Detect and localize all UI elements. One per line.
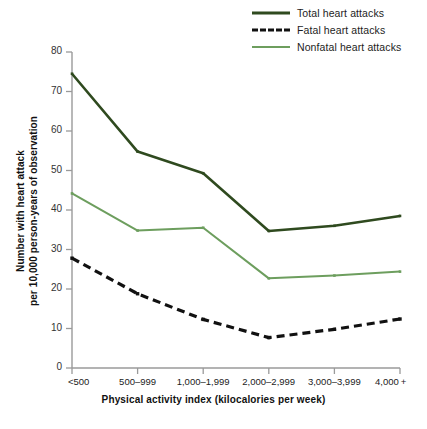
data-point-marker xyxy=(71,72,74,75)
data-point-marker xyxy=(333,274,336,277)
y-axis-tick-label: 30 xyxy=(32,243,62,254)
x-axis-tick-label: 3,000–3,999 xyxy=(308,376,361,387)
data-point-marker xyxy=(399,215,402,218)
series-line-2 xyxy=(72,193,400,278)
y-axis-tick-label: 10 xyxy=(32,322,62,333)
data-point-marker xyxy=(267,336,270,339)
figure-heart-attack-physical-activity: Total heart attacks Fatal heart attacks … xyxy=(0,0,427,429)
data-point-marker xyxy=(136,292,139,295)
data-point-marker xyxy=(202,172,205,175)
y-axis-tick-label: 40 xyxy=(32,203,62,214)
series-line-1 xyxy=(72,258,400,337)
x-axis-tick-label: 2,000–2,999 xyxy=(242,376,295,387)
data-point-marker xyxy=(333,225,336,228)
x-axis-tick-label: 500–999 xyxy=(119,376,156,387)
y-axis-tick-label: 70 xyxy=(32,85,62,96)
data-point-marker xyxy=(333,328,336,331)
y-axis-title-line1: Number with heart attack xyxy=(15,150,26,272)
y-axis-tick-label: 80 xyxy=(32,45,62,56)
data-point-marker xyxy=(202,318,205,321)
data-point-marker xyxy=(268,230,271,233)
series-line-0 xyxy=(72,74,400,231)
data-point-marker xyxy=(398,317,401,320)
data-point-marker xyxy=(71,192,74,195)
data-point-marker xyxy=(136,150,139,153)
data-point-marker xyxy=(136,229,139,232)
y-axis-tick-label: 0 xyxy=(32,361,62,372)
y-axis-tick-label: 50 xyxy=(32,164,62,175)
x-axis-tick-label: 4,000 + xyxy=(375,376,406,387)
plot-area xyxy=(0,0,427,429)
data-point-marker xyxy=(268,277,271,280)
y-axis-tick-label: 60 xyxy=(32,124,62,135)
x-axis-tick-label: <500 xyxy=(68,376,89,387)
data-point-marker xyxy=(399,270,402,273)
x-axis-title: Physical activity index (kilocalories pe… xyxy=(0,394,427,405)
data-point-marker xyxy=(202,226,205,229)
y-axis-tick-label: 20 xyxy=(32,282,62,293)
data-point-marker xyxy=(70,256,73,259)
x-axis-tick-label: 1,000–1,999 xyxy=(177,376,230,387)
